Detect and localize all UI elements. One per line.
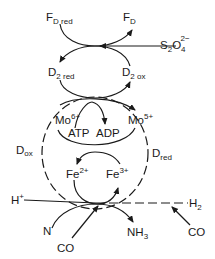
label-co-left: CO bbox=[57, 242, 74, 254]
label-co-right: CO bbox=[188, 226, 205, 238]
ferredoxin-cycle bbox=[60, 24, 176, 46]
label-fd-red: FD red bbox=[46, 11, 73, 26]
fe-bottom-arrow bbox=[74, 180, 118, 204]
label-d2-red: D2 red bbox=[48, 66, 75, 81]
fe-top-arrow bbox=[77, 152, 120, 164]
label-dithionite: S2O42− bbox=[160, 34, 190, 54]
label-hydrogen: H2 bbox=[189, 197, 202, 212]
co-left-arrow bbox=[72, 206, 98, 238]
fd-arrow bbox=[95, 30, 132, 46]
label-fe-3plus: Fe3+ bbox=[106, 166, 129, 180]
fd-red-arc bbox=[60, 24, 95, 46]
d2-upper-cycle bbox=[60, 46, 130, 66]
d2-red-arrow bbox=[60, 46, 95, 62]
label-ammonia: NH3 bbox=[127, 226, 149, 241]
label-nitrogen: N bbox=[43, 225, 51, 237]
label-fd: FD bbox=[123, 11, 136, 26]
diagram-canvas: FD red FD S2O42− D2 red D2 ox Mo6+ Mo5+ … bbox=[0, 0, 215, 259]
d2-red-arc-bottom bbox=[60, 80, 95, 98]
label-d-red: Dred bbox=[152, 147, 172, 162]
label-mo-5plus: Mo5+ bbox=[128, 112, 153, 126]
d2-ox-arrow bbox=[95, 82, 130, 98]
co-right-arrow bbox=[172, 207, 190, 225]
label-d2-ox: D2 ox bbox=[122, 66, 145, 81]
d2-lower-cycle bbox=[60, 80, 130, 98]
nitrogenase-reaction-diagram: FD red FD S2O42− D2 red D2 ox Mo6+ Mo5+ … bbox=[0, 0, 215, 259]
adp-arrow bbox=[92, 102, 105, 124]
label-atp: ATP bbox=[68, 127, 90, 139]
label-mo-6plus: Mo6+ bbox=[55, 112, 80, 126]
label-d-ox: Dox bbox=[16, 144, 33, 158]
label-adp: ADP bbox=[96, 127, 120, 139]
label-proton: H+ bbox=[11, 192, 24, 206]
d2-ox-arc-top bbox=[95, 46, 130, 66]
label-fe-2plus: Fe2+ bbox=[66, 166, 89, 180]
ammonia-arrow bbox=[96, 204, 133, 222]
